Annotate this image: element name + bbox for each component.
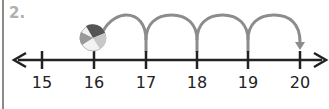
jump-arc-17-18 <box>146 15 197 52</box>
jump-arc-18-19 <box>197 15 248 52</box>
tick-label-15: 15 <box>32 73 52 92</box>
tick-label-17: 17 <box>136 73 156 92</box>
tick-label-16: 16 <box>84 73 104 92</box>
tick-label-20: 20 <box>290 73 310 92</box>
beach-ball-icon <box>80 24 106 51</box>
jump-arc-19-20 <box>248 15 300 42</box>
jump-arcs <box>102 15 300 52</box>
tick-labels: 15 16 17 18 19 20 <box>32 73 310 92</box>
tick-label-18: 18 <box>187 73 207 92</box>
arrowhead-icon <box>295 42 305 50</box>
jump-arc-16-17 <box>102 15 146 52</box>
tick-label-19: 19 <box>238 73 258 92</box>
number-line <box>18 51 322 69</box>
number-line-diagram: 15 16 17 18 19 20 <box>0 0 329 109</box>
